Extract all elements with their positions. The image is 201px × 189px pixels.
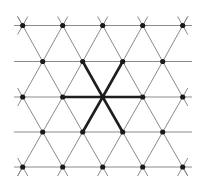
lattice-node <box>80 129 85 134</box>
lattice-node <box>40 129 45 134</box>
diagonal-bond-line <box>123 26 143 62</box>
lattice-node <box>20 164 25 169</box>
diagonal-bond-line <box>103 26 123 62</box>
lattice-canvas <box>0 0 201 189</box>
diagonal-bond-line <box>43 26 63 62</box>
diagonal-bond-line <box>63 132 83 167</box>
highlighted-bond <box>83 97 103 132</box>
lattice-node <box>180 94 185 99</box>
diagonal-bond-line <box>143 26 163 62</box>
diagonal-bond-line <box>83 132 103 167</box>
diagonal-bond-line <box>43 62 63 98</box>
diagonal-bond-line <box>23 132 43 167</box>
diagonal-bond-line <box>63 62 83 98</box>
diagonal-bond-line <box>83 26 103 62</box>
lattice-node <box>20 23 25 28</box>
highlighted-bond <box>103 62 123 98</box>
lattice-node <box>140 94 145 99</box>
highlighted-bond <box>103 97 123 132</box>
diagonal-bond-line <box>163 26 183 62</box>
lattice-node <box>100 164 105 169</box>
diagonal-bond-line <box>143 62 163 98</box>
lattice-node <box>100 94 105 99</box>
diagonal-bond-line <box>103 132 123 167</box>
lattice-node <box>60 23 65 28</box>
diagonal-bond-line <box>23 62 43 98</box>
lattice-node <box>180 23 185 28</box>
diagonal-bond-line <box>23 26 43 62</box>
triangular-lattice-diagram <box>0 0 201 189</box>
diagonal-bond-line <box>163 132 183 167</box>
diagonal-bond-line <box>63 26 83 62</box>
lattice-node <box>60 94 65 99</box>
lattice-node <box>180 164 185 169</box>
diagonal-bond-line <box>43 132 63 167</box>
diagonal-bond-line <box>123 132 143 167</box>
lattice-node <box>40 59 45 64</box>
highlighted-bond <box>83 62 103 98</box>
lattice-node <box>140 23 145 28</box>
diagonal-bond-line <box>43 97 63 132</box>
diagonal-bond-line <box>143 97 163 132</box>
lattice-node <box>80 59 85 64</box>
diagonal-bond-line <box>143 132 163 167</box>
lattice-node <box>160 129 165 134</box>
lattice-node <box>120 129 125 134</box>
diagonal-bond-line <box>163 97 183 132</box>
lattice-node <box>160 59 165 64</box>
lattice-node <box>20 94 25 99</box>
lattice-sites <box>20 23 185 170</box>
diagonal-bond-line <box>123 97 143 132</box>
diagonal-bond-line <box>163 62 183 98</box>
diagonal-bond-line <box>23 97 43 132</box>
lattice-node <box>60 164 65 169</box>
diagonal-bond-line <box>123 62 143 98</box>
lattice-node <box>120 59 125 64</box>
lattice-node <box>140 164 145 169</box>
lattice-node <box>100 23 105 28</box>
diagonal-bond-line <box>63 97 83 132</box>
